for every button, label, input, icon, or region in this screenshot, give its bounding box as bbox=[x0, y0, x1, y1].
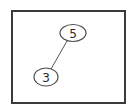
tree-diagram: 5 3 bbox=[0, 0, 129, 109]
node-label: 3 bbox=[42, 71, 50, 85]
tree-node-3: 3 bbox=[34, 68, 58, 86]
node-label: 5 bbox=[69, 27, 77, 41]
tree-node-5: 5 bbox=[60, 25, 86, 42]
tree-edge-5-to-3 bbox=[51, 41, 67, 69]
